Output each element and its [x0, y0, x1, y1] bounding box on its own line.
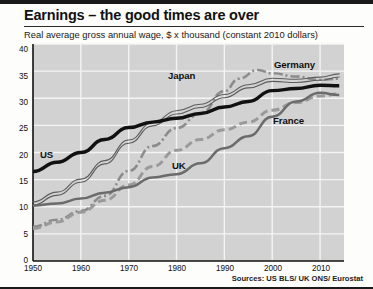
series-label-france: France: [273, 115, 304, 126]
plot-area: [0, 2, 373, 289]
y-tick-10: 10: [10, 203, 28, 212]
x-tick-2010: 2010: [301, 264, 341, 273]
source-note: Sources: US BLS/ UK ONS/ Eurostat: [232, 274, 363, 283]
y-tick-20: 20: [10, 151, 28, 160]
y-tick-15: 15: [10, 177, 28, 186]
y-tick-30: 30: [10, 98, 28, 107]
line-chart-svg: [0, 2, 373, 289]
y-tick-25: 25: [10, 124, 28, 133]
x-tick-2000: 2000: [253, 264, 293, 273]
y-tick-35: 35: [10, 72, 28, 81]
x-tick-1960: 1960: [61, 264, 101, 273]
series-label-us: US: [40, 149, 53, 160]
series-label-japan: Japan: [168, 70, 195, 81]
x-tick-1980: 1980: [157, 264, 197, 273]
y-tick-40: 40: [10, 45, 28, 54]
x-tick-1970: 1970: [109, 264, 149, 273]
series-label-uk: UK: [172, 160, 186, 171]
series-label-germany: Germany: [274, 59, 315, 70]
chart-figure: Earnings – the good times are over Real …: [0, 0, 373, 289]
y-tick-5: 5: [10, 230, 28, 239]
x-tick-1990: 1990: [205, 264, 245, 273]
x-tick-1950: 1950: [13, 264, 53, 273]
